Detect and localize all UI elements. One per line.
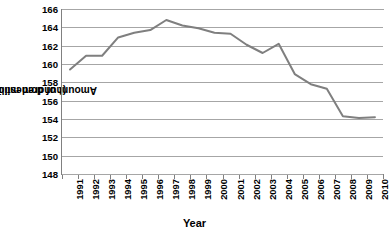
x-axis-tick-label: 1991 bbox=[64, 179, 76, 217]
y-axis-tick-label: 166 bbox=[42, 4, 58, 15]
x-axis-tick-label: 2000 bbox=[208, 179, 220, 217]
y-axis-tick-label: 158 bbox=[42, 77, 58, 88]
x-axis-tick-label: 2001 bbox=[225, 179, 237, 217]
x-axis-tick-label: 2008 bbox=[337, 179, 349, 217]
line-chart: Amount of domestic water in use (hundred… bbox=[0, 0, 389, 245]
x-axis-tick-label-text: 2010 bbox=[379, 179, 389, 200]
x-axis-tick-label: 2003 bbox=[257, 179, 269, 217]
x-axis-tick-label: 1995 bbox=[128, 179, 140, 217]
y-axis-tick-label: 152 bbox=[42, 132, 58, 143]
y-axis-tick-label: 156 bbox=[42, 95, 58, 106]
x-axis-tick-label: 1996 bbox=[144, 179, 156, 217]
series-polyline bbox=[70, 20, 375, 118]
data-series-line bbox=[62, 9, 383, 174]
y-axis-title: Amount of domestic water in use (hundred… bbox=[0, 0, 34, 180]
y-axis-tick-label: 154 bbox=[42, 114, 58, 125]
x-axis-tick-label: 1994 bbox=[112, 179, 124, 217]
x-axis-tick-label: 1999 bbox=[192, 179, 204, 217]
x-axis-tick-label: 2005 bbox=[289, 179, 301, 217]
x-axis-title: Year bbox=[0, 217, 389, 229]
y-axis-tick-label: 150 bbox=[42, 150, 58, 161]
x-axis-tick-label: 2009 bbox=[353, 179, 365, 217]
y-axis-tick-label: 148 bbox=[42, 169, 58, 180]
x-axis-tick-label: 1992 bbox=[80, 179, 92, 217]
x-axis-tick-label: 2010 bbox=[369, 179, 381, 217]
y-axis-tick-label: 164 bbox=[42, 22, 58, 33]
x-axis-tick-label: 1993 bbox=[96, 179, 108, 217]
x-axis-tick-label: 1997 bbox=[160, 179, 172, 217]
x-axis-tick-label: 2007 bbox=[321, 179, 333, 217]
x-axis-tick-label: 2006 bbox=[305, 179, 317, 217]
y-axis-tick-label: 160 bbox=[42, 59, 58, 70]
y-axis-tick-label: 162 bbox=[42, 40, 58, 51]
y-axis-tick-labels: 148150152154156158160162164166 bbox=[34, 0, 61, 185]
x-axis-tick-labels: 1991199219931994199519961997199819992000… bbox=[0, 179, 389, 219]
x-axis-tick-label: 2004 bbox=[273, 179, 285, 217]
x-axis-tick-label: 1998 bbox=[176, 179, 188, 217]
plot-area bbox=[62, 9, 383, 174]
x-axis-tick-label: 2002 bbox=[241, 179, 253, 217]
